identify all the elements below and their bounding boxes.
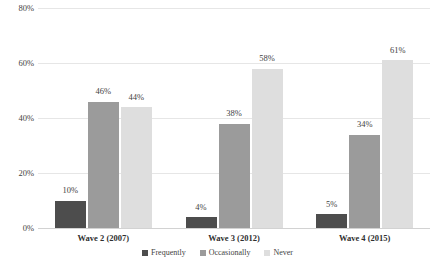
bar-value-label: 4%	[195, 203, 206, 212]
bar-slot-frequently: 4%	[186, 8, 217, 228]
bar-group-wave-3: 4% 38% 58%	[169, 8, 300, 228]
bar-never[interactable]	[252, 69, 283, 229]
chart-legend: Frequently Occasionally Never	[0, 247, 435, 259]
y-axis-tick-20: 20%	[0, 169, 34, 178]
legend-label: Never	[273, 249, 293, 257]
bar-frequently[interactable]	[186, 217, 217, 228]
bar-value-label: 5%	[326, 200, 337, 209]
bar-occasionally[interactable]	[349, 135, 380, 229]
bar-occasionally[interactable]	[88, 102, 119, 229]
bar-group-bars: 4% 38% 58%	[169, 8, 300, 228]
legend-item-occasionally[interactable]: Occasionally	[200, 249, 251, 257]
bar-slot-frequently: 5%	[316, 8, 347, 228]
bar-group-bars: 5% 34% 61%	[299, 8, 430, 228]
legend-swatch-icon	[264, 250, 270, 256]
bar-value-label: 46%	[96, 87, 112, 96]
bar-value-label: 58%	[259, 54, 275, 63]
y-axis-tick-0: 0%	[0, 224, 34, 233]
bar-slot-occasionally: 46%	[88, 8, 119, 228]
bar-occasionally[interactable]	[219, 124, 250, 229]
bar-chart: 80% 60% 40% 20% 0% 10% 46%	[0, 0, 435, 262]
bar-never[interactable]	[121, 107, 152, 228]
y-axis-tick-60: 60%	[0, 59, 34, 68]
bar-slot-occasionally: 34%	[349, 8, 380, 228]
bar-frequently[interactable]	[55, 201, 86, 229]
legend-swatch-icon	[142, 250, 148, 256]
x-axis-label-wave-3: Wave 3 (2012)	[169, 232, 300, 246]
bar-group-bars: 10% 46% 44%	[38, 8, 169, 228]
bar-group-wave-2: 10% 46% 44%	[38, 8, 169, 228]
y-axis-tick-40: 40%	[0, 114, 34, 123]
bar-group-wave-4: 5% 34% 61%	[299, 8, 430, 228]
bar-frequently[interactable]	[316, 214, 347, 228]
bar-value-label: 38%	[226, 109, 242, 118]
x-axis-labels: Wave 2 (2007) Wave 3 (2012) Wave 4 (2015…	[38, 232, 430, 246]
bar-never[interactable]	[382, 60, 413, 228]
y-axis-tick-80: 80%	[0, 4, 34, 13]
bar-slot-never: 61%	[382, 8, 413, 228]
bar-slot-never: 44%	[121, 8, 152, 228]
bar-slot-never: 58%	[252, 8, 283, 228]
legend-item-never[interactable]: Never	[264, 249, 293, 257]
legend-label: Occasionally	[209, 249, 251, 257]
plot-area: 10% 46% 44% 4%	[38, 8, 430, 228]
x-axis-label-wave-2: Wave 2 (2007)	[38, 232, 169, 246]
x-axis-label-wave-4: Wave 4 (2015)	[299, 232, 430, 246]
bar-value-label: 61%	[390, 46, 406, 55]
bar-groups: 10% 46% 44% 4%	[38, 8, 430, 228]
axis-baseline	[38, 228, 430, 229]
legend-item-frequently[interactable]: Frequently	[142, 249, 186, 257]
bar-value-label: 10%	[63, 186, 79, 195]
bar-value-label: 44%	[129, 93, 145, 102]
legend-label: Frequently	[151, 249, 186, 257]
bar-value-label: 34%	[357, 120, 373, 129]
legend-swatch-icon	[200, 250, 206, 256]
bar-slot-occasionally: 38%	[219, 8, 250, 228]
bar-slot-frequently: 10%	[55, 8, 86, 228]
